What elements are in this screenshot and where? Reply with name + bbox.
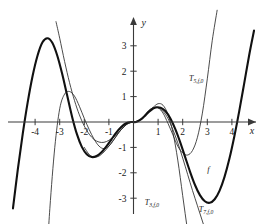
- x-tick-label: 1: [156, 127, 161, 137]
- y-axis-label: y: [141, 17, 147, 28]
- plot-canvas: -4-3-2-11234 321-1-2-3 x y f T5,f,0 T3,f…: [0, 0, 269, 224]
- curve-label-f: f: [207, 164, 211, 174]
- curve-label-t7-sub: 7,f,0: [203, 209, 213, 215]
- axes-layer: -4-3-2-11234 321-1-2-3: [8, 17, 256, 214]
- curve-label-t3-sub: 3,f,0: [148, 202, 159, 208]
- x-axis-label: x: [249, 125, 255, 136]
- x-tick-label: -2: [80, 127, 88, 137]
- x-tick-label: 4: [230, 127, 235, 137]
- y-tick-label: -2: [119, 168, 127, 178]
- curve-label-t7: T7,f,0: [199, 205, 214, 215]
- x-tick-label: -4: [31, 127, 39, 137]
- y-tick-label: 2: [122, 67, 127, 77]
- x-tick-label: 2: [180, 127, 185, 137]
- taylor-polynomial-plot: -4-3-2-11234 321-1-2-3 x y f T5,f,0 T3,f…: [0, 0, 269, 224]
- y-tick-label: 3: [122, 41, 127, 51]
- curve-label-t5-sub: 5,f,0: [193, 78, 203, 84]
- y-tick-label: -3: [119, 194, 127, 204]
- curve-label-t3: T3,f,0: [145, 198, 160, 208]
- x-tick-label: 3: [205, 127, 210, 137]
- x-tick-label: -3: [56, 127, 64, 137]
- curve-label-t5: T5,f,0: [189, 74, 204, 84]
- x-tick-label: -1: [105, 127, 113, 137]
- y-axis-arrow-icon: [130, 17, 137, 25]
- y-tick-label: 1: [122, 92, 127, 102]
- y-tick-label: -1: [119, 143, 127, 153]
